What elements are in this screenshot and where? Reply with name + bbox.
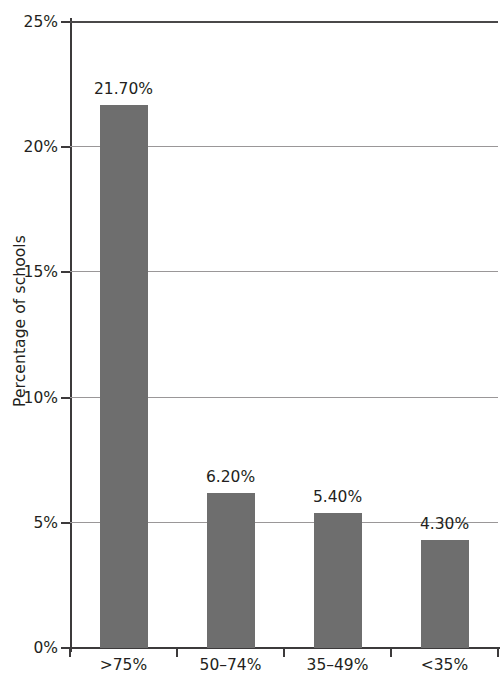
y-axis-tick-label: 20% xyxy=(6,138,58,156)
x-axis-category-label: 50–74% xyxy=(176,656,286,674)
y-axis-line xyxy=(70,18,72,652)
x-axis-category-labels: >75%50–74%35–49%<35% xyxy=(70,656,498,690)
y-axis-tick xyxy=(61,271,70,273)
y-axis-tick xyxy=(61,522,70,524)
bar xyxy=(100,105,148,648)
y-axis-tick xyxy=(61,146,70,148)
bar xyxy=(207,493,255,648)
y-axis-tick-label: 0% xyxy=(6,639,58,657)
bar-value-label: 4.30% xyxy=(390,515,500,533)
bar-chart-figure: Percentage of schools 0%5%10%15%20%25% 2… xyxy=(0,0,500,694)
bar-value-label: 5.40% xyxy=(283,488,393,506)
chart-title-clipped xyxy=(0,0,500,6)
x-axis-category-label: >75% xyxy=(69,656,179,674)
x-axis-category-label: 35–49% xyxy=(283,656,393,674)
bar-value-label: 6.20% xyxy=(176,468,286,486)
gridline xyxy=(70,21,498,23)
y-axis-tick-label: 10% xyxy=(6,389,58,407)
y-axis-tick-labels: 0%5%10%15%20%25% xyxy=(0,22,58,648)
x-axis-category-label: <35% xyxy=(390,656,500,674)
y-axis-tick-label: 25% xyxy=(6,13,58,31)
y-axis-tick xyxy=(61,397,70,399)
bar-value-label: 21.70% xyxy=(69,80,179,98)
y-axis-tick xyxy=(61,21,70,23)
y-axis-tick-label: 15% xyxy=(6,263,58,281)
y-axis-tick-label: 5% xyxy=(6,514,58,532)
bar xyxy=(314,513,362,648)
plot-area: 21.70%6.20%5.40%4.30% xyxy=(70,22,498,648)
bar xyxy=(421,540,469,648)
